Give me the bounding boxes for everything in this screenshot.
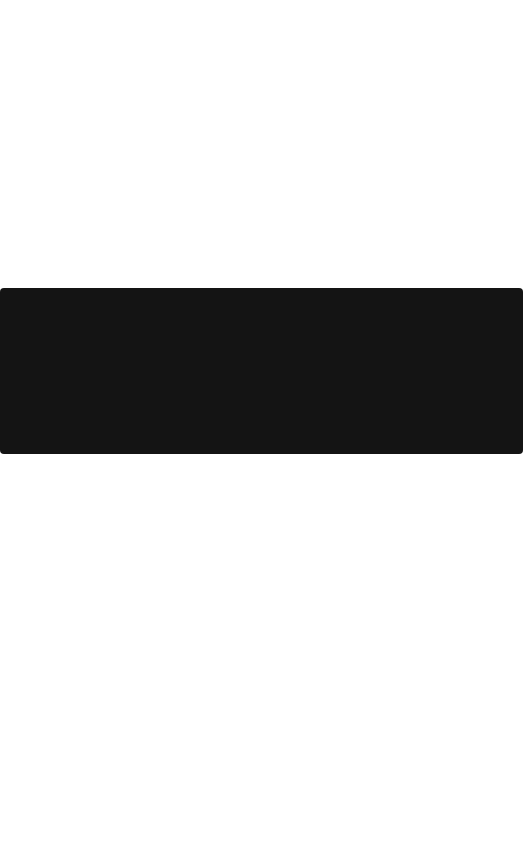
dark-media-placeholder — [0, 288, 523, 454]
blank-page — [0, 0, 523, 859]
